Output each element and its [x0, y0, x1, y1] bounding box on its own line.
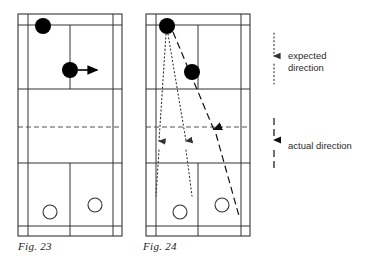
court-left-player-open-defender-right [88, 198, 102, 212]
court-right-expected-path-straight [159, 34, 166, 141]
court-right-expected-path-cross-tail [186, 150, 192, 196]
court-left-player-filled-attacker-top-left [35, 18, 51, 34]
court-left-player-filled-attacker-mid [62, 62, 78, 78]
legend-expected-label-line2: direction [288, 62, 327, 74]
court-left [18, 14, 122, 236]
legend-actual-label-line1: actual direction [288, 140, 352, 151]
court-right-player-filled-attacker-mid [184, 64, 200, 80]
legend-expected-label: expected direction [288, 50, 327, 74]
badminton-diagram-svg [0, 0, 366, 264]
court-right-player-open-defender-left [173, 205, 187, 219]
figure-caption-left: Fig. 23 [18, 240, 52, 252]
court-right-expected-path-cross [168, 34, 186, 141]
figure-caption-right: Fig. 24 [143, 240, 177, 252]
court-right-player-filled-attacker-top-left [159, 18, 175, 34]
court-right [146, 14, 250, 236]
legend-actual-label: actual direction [288, 140, 352, 152]
court-right-player-open-defender-right [215, 198, 229, 212]
court-left-player-open-defender-left [43, 205, 57, 219]
legend-expected-label-line1: expected [288, 50, 327, 61]
figure-root: expected direction actual direction Fig.… [0, 0, 366, 264]
court-right-actual-path-upper [173, 32, 214, 130]
